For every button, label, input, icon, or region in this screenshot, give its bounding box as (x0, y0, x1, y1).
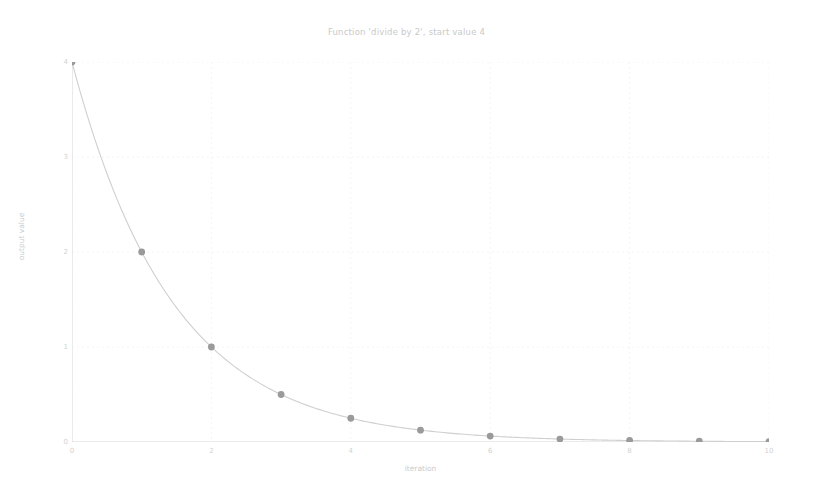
axis-lines (72, 62, 769, 442)
chart-title: Function 'divide by 2', start value 4 (0, 27, 813, 37)
y-axis-label: output value (17, 197, 26, 277)
grid-lines (72, 62, 769, 442)
y-tick-label: 4 (52, 58, 68, 66)
data-line-series (72, 62, 769, 442)
y-tick-label: 2 (52, 248, 68, 256)
y-axis-tick-labels: 01234 (50, 62, 68, 442)
x-tick-label: 6 (479, 447, 501, 455)
chart-figure: Function 'divide by 2', start value 4 ou… (0, 0, 813, 491)
x-axis-tick-labels: 0246810 (72, 447, 769, 459)
data-point (278, 391, 285, 398)
data-point (557, 436, 564, 442)
data-point (417, 427, 424, 434)
x-tick-label: 4 (340, 447, 362, 455)
data-point (72, 62, 75, 65)
data-point (347, 415, 354, 422)
y-tick-label: 0 (52, 438, 68, 446)
x-tick-label: 2 (200, 447, 222, 455)
data-point (208, 344, 215, 351)
x-tick-label: 0 (61, 447, 83, 455)
plot-area (72, 62, 769, 442)
x-axis-label: iteration (72, 464, 769, 473)
tick-marks (72, 62, 769, 442)
y-tick-label: 3 (52, 153, 68, 161)
data-point (766, 438, 769, 442)
data-point (696, 438, 703, 442)
x-tick-label: 10 (758, 447, 780, 455)
data-point (626, 437, 633, 442)
data-point (138, 249, 145, 256)
plot-canvas (72, 62, 769, 442)
x-tick-label: 8 (619, 447, 641, 455)
data-point-markers (72, 62, 769, 442)
data-point (487, 433, 494, 440)
y-tick-label: 1 (52, 343, 68, 351)
